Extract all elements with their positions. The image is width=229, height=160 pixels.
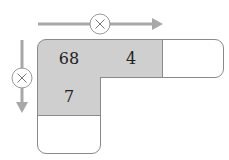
cell-value: 68 <box>59 49 79 68</box>
cell-value: 4 <box>126 49 136 68</box>
cell-value: 7 <box>64 87 74 106</box>
cell-r3c1[interactable] <box>37 115 101 154</box>
cell-r1c2: 4 <box>100 39 163 78</box>
cell-r1c3[interactable] <box>162 39 224 78</box>
cell-r1c1: 68 <box>37 39 101 78</box>
arrows-layer <box>0 0 229 160</box>
horizontal-arrow <box>38 14 163 34</box>
cell-r2c1: 7 <box>37 77 101 116</box>
vertical-arrow <box>12 40 32 113</box>
